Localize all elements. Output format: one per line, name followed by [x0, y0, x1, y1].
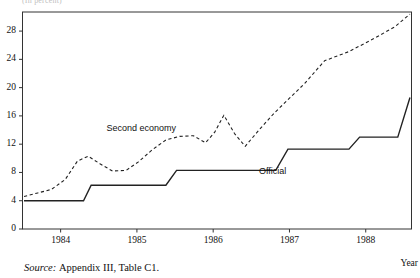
source-reference: Appendix III, Table C1.: [59, 262, 159, 273]
y-tick-label-12: 12: [0, 138, 16, 148]
source-note: Source: Appendix III, Table C1.: [24, 262, 159, 273]
y-tick-marks: [19, 31, 23, 229]
x-tick-label-1987: 1987: [269, 235, 309, 245]
y-tick-label-16: 16: [0, 110, 16, 120]
x-tick-label-1984: 1984: [41, 235, 81, 245]
series-line-second-economy: [24, 14, 410, 196]
y-tick-label-20: 20: [0, 82, 16, 92]
x-tick-label-1986: 1986: [193, 235, 233, 245]
y-tick-label-0: 0: [0, 223, 16, 233]
x-tick-label-1988: 1988: [346, 235, 386, 245]
y-tick-label-4: 4: [0, 195, 16, 205]
y-tick-label-8: 8: [0, 166, 16, 176]
series-line-official: [24, 98, 410, 201]
y-tick-label-28: 28: [0, 25, 16, 35]
x-tick-label-1985: 1985: [117, 235, 157, 245]
figure-container: (In percent) 0481216202428 1984198519861…: [0, 0, 420, 278]
x-axis-name: Year: [400, 258, 418, 268]
series-annotation-official: Official: [259, 166, 286, 176]
series-annotation-second-economy: Second economy: [106, 123, 176, 133]
source-label: Source:: [24, 262, 56, 273]
y-tick-label-24: 24: [0, 53, 16, 63]
x-tick-marks: [61, 229, 366, 233]
